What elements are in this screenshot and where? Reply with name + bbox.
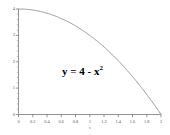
- equation-base: y = 4 - x: [62, 65, 99, 77]
- y-tick-label-1: 1: [9, 86, 15, 90]
- equation-annotation: y = 4 - x2: [62, 66, 103, 77]
- y-tick-label-4: 4: [9, 7, 15, 11]
- x-tick-label-0-4: 0.4: [44, 120, 50, 124]
- x-tick-label-0-8: 0.8: [73, 120, 79, 124]
- x-tick-label-0-2: 0.2: [30, 120, 36, 124]
- x-tick-label-2: 2: [160, 120, 162, 124]
- y-tick-label-3: 3: [9, 33, 15, 37]
- curve-y-equals-4-minus-x-squared: [19, 9, 162, 115]
- x-tick-label-1-4: 1.4: [116, 120, 122, 124]
- y-tick-label-2: 2: [9, 60, 15, 64]
- x-tick-label-1-6: 1.6: [130, 120, 136, 124]
- equation-exponent: 2: [99, 64, 103, 72]
- x-axis-label: x: [89, 127, 91, 131]
- x-tick-label-1-8: 1.8: [144, 120, 150, 124]
- x-tick-label-1: 1: [89, 120, 91, 124]
- x-axis-ticks: [19, 115, 162, 118]
- x-tick-label-1-2: 1.2: [101, 120, 107, 124]
- chart-screenshot: 4 3 2 1 0 0 0.2 0.4 0.6 0.8 1 1.2 1.4 1.…: [0, 0, 170, 135]
- x-tick-label-0-6: 0.6: [59, 120, 65, 124]
- y-tick-label-0: 0: [9, 112, 15, 116]
- x-tick-label-0: 0: [17, 120, 19, 124]
